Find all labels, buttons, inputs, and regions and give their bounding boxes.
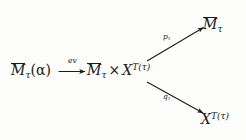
evaluation-map-label-text: ev — [68, 56, 77, 65]
overline-group: M — [11, 62, 25, 77]
node-target-bottom-base: X — [201, 111, 211, 127]
overline-group: M — [87, 62, 101, 77]
node-moduli-space: Mτ — [203, 16, 222, 33]
overline-bar — [11, 63, 25, 64]
first-projection-label-subscript: τ — [168, 36, 171, 41]
node-product-right-base: X — [122, 62, 132, 78]
second-projection-label-subscript: τ — [168, 96, 171, 101]
overline-bar — [203, 17, 217, 18]
node-target-bottom-superscript: T(τ) — [211, 111, 229, 121]
overline-bar — [87, 63, 101, 64]
overline-group: M — [203, 16, 217, 31]
first-projection-arrow — [147, 28, 204, 62]
node-target-top-base: M — [203, 17, 217, 31]
second-projection-arrow — [147, 82, 203, 113]
node-configuration-space: XT(τ) — [201, 112, 229, 126]
node-product-right-superscript: T(τ) — [132, 62, 150, 72]
node-source-argument: (α) — [30, 62, 51, 78]
first-projection-label: pτ — [163, 33, 170, 42]
times-operator: × — [106, 62, 122, 78]
commutative-diagram: Mτ(α) Mτ×XT(τ) Mτ XT(τ) ev pτ qτ — [0, 0, 246, 140]
node-moduli-space-of-alpha: Mτ(α) — [11, 62, 51, 79]
node-target-top-subscript: τ — [217, 24, 222, 34]
second-projection-label: qτ — [163, 93, 170, 102]
node-source-base: M — [11, 63, 25, 77]
node-product-left-base: M — [87, 63, 101, 77]
node-product-space: Mτ×XT(τ) — [87, 62, 150, 79]
evaluation-map-label: ev — [68, 57, 77, 65]
